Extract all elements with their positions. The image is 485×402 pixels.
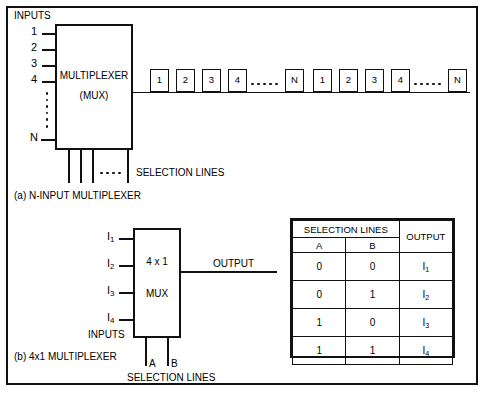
input-lead-i1 <box>119 238 134 240</box>
stream-cell: 4 <box>228 69 247 92</box>
inputs-label-a: INPUTS <box>14 10 51 21</box>
input-label-i2-sub: 2 <box>110 262 114 271</box>
selection-lines-ellipsis <box>100 170 121 176</box>
input-label-4: 4 <box>31 74 37 85</box>
truth-cell-a: 0 <box>293 253 346 281</box>
output-label-b: OUTPUT <box>213 258 254 269</box>
truth-table-row: 1 0 I3 <box>293 309 453 337</box>
truth-cell-b: 0 <box>346 309 399 337</box>
input-lead-3 <box>42 65 56 67</box>
input-label-i3-sub: 3 <box>110 289 114 298</box>
truth-cell-output: I2 <box>399 281 452 309</box>
inputs-label-b: INPUTS <box>88 329 125 340</box>
input-lead-2 <box>42 49 56 51</box>
selection-line-c-stem <box>92 150 94 183</box>
input-lead-i4 <box>119 319 134 321</box>
stream-cell: 2 <box>339 69 358 92</box>
truth-table-row: 0 0 I1 <box>293 253 453 281</box>
input-label-1: 1 <box>31 26 37 37</box>
truth-cell-a: 1 <box>293 309 346 337</box>
input-label-i3: I3 <box>107 285 114 297</box>
truth-cell-output: I3 <box>399 309 452 337</box>
stream-ellipsis-2 <box>414 81 441 87</box>
truth-cell-output-sub: 3 <box>425 321 429 330</box>
stream-cell: 1 <box>150 69 169 92</box>
truth-table-row: 1 1 I4 <box>293 337 453 365</box>
selection-lines-label-b: SELECTION LINES <box>127 372 215 383</box>
input-lead-i2 <box>119 265 134 267</box>
mux-4x1-block: 4 x 1 MUX <box>133 228 181 338</box>
truth-table: SELECTION LINES OUTPUT A B 0 0 I1 0 1 I2… <box>290 218 455 358</box>
caption-a: (a) N-INPUT MULTIPLEXER <box>14 190 141 201</box>
truth-cell-b: 1 <box>346 337 399 365</box>
input-label-3: 3 <box>31 58 37 69</box>
input-label-2: 2 <box>31 42 37 53</box>
multiplexer-block: MULTIPLEXER (MUX) <box>55 24 133 150</box>
input-label-i2: I2 <box>107 258 114 270</box>
truth-table-header-selection: SELECTION LINES <box>293 221 400 238</box>
input-lead-i3 <box>119 292 134 294</box>
multiplexer-block-subtitle: (MUX) <box>57 90 131 101</box>
truth-table-header-output: OUTPUT <box>399 221 452 253</box>
selection-line-b-stem <box>80 150 82 183</box>
truth-cell-output-sub: 1 <box>425 265 429 274</box>
mux-4x1-subtitle: MUX <box>135 288 179 299</box>
selection-label-a: A <box>149 358 156 369</box>
stream-cell: 4 <box>391 69 410 92</box>
stream-ellipsis-1 <box>251 81 278 87</box>
input-ellipsis-vertical <box>44 92 50 128</box>
truth-table-header-b: B <box>346 238 399 253</box>
input-lead-1 <box>42 33 56 35</box>
output-line-b <box>181 271 277 273</box>
truth-cell-output: I4 <box>399 337 452 365</box>
multiplexer-block-title: MULTIPLEXER <box>57 70 131 81</box>
truth-cell-output-sub: 2 <box>425 293 429 302</box>
selection-stem-a <box>145 338 147 366</box>
stream-cell: 1 <box>313 69 332 92</box>
selection-stem-b <box>167 338 169 366</box>
input-lead-4 <box>42 81 56 83</box>
stream-cell: 3 <box>202 69 221 92</box>
truth-table-header-a: A <box>293 238 346 253</box>
input-label-i4: I4 <box>107 312 114 324</box>
mux-4x1-title: 4 x 1 <box>135 256 179 267</box>
stream-cell: 3 <box>365 69 384 92</box>
input-label-i4-sub: 4 <box>110 316 114 325</box>
truth-table-row: 0 1 I2 <box>293 281 453 309</box>
selection-line-n-stem <box>127 150 129 183</box>
truth-cell-a: 1 <box>293 337 346 365</box>
truth-cell-b: 0 <box>346 253 399 281</box>
diagram-page: INPUTS 1 2 3 4 N MULTIPLEXER (MUX) 1 2 3… <box>0 0 485 402</box>
selection-lines-label-a: SELECTION LINES <box>136 167 224 178</box>
selection-label-b: B <box>171 358 178 369</box>
input-label-i1-sub: 1 <box>110 235 114 244</box>
selection-line-a-stem <box>68 150 70 183</box>
stream-cell-n: N <box>448 69 467 92</box>
input-label-n-value: N <box>30 132 38 143</box>
truth-cell-b: 1 <box>346 281 399 309</box>
truth-cell-output-sub: 4 <box>425 349 429 358</box>
truth-cell-output: I1 <box>399 253 452 281</box>
input-label-i1: I1 <box>107 231 114 243</box>
input-lead-n <box>41 139 56 141</box>
stream-cell: 2 <box>176 69 195 92</box>
stream-cell-n: N <box>285 69 304 92</box>
truth-cell-a: 0 <box>293 281 346 309</box>
caption-b: (b) 4x1 MULTIPLEXER <box>14 351 117 362</box>
